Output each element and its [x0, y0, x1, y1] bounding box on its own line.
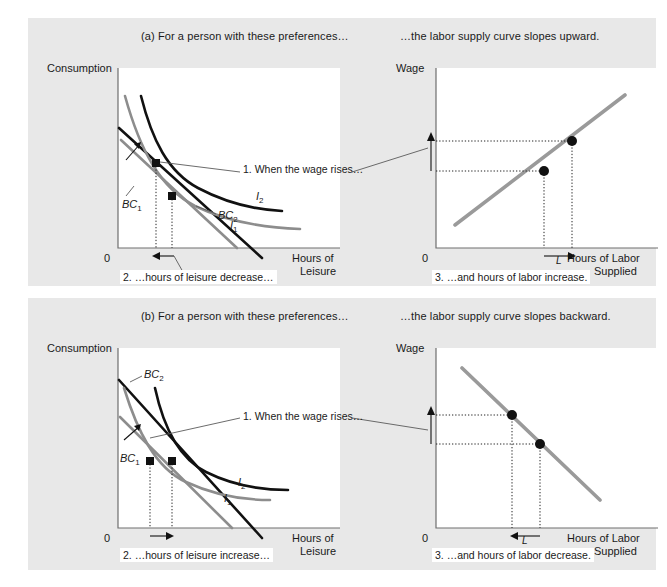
panel-b-leisure-arrowhead — [166, 532, 174, 540]
panel-b-bc2-label-text: BC — [144, 368, 159, 380]
panel-b-bc1-curve — [120, 417, 232, 528]
panel-b-wage-arrowhead — [427, 406, 435, 415]
panel-b-i1-label-sub: 1 — [227, 498, 231, 507]
panel-b-point-high-wage — [507, 410, 517, 420]
panel-b-i2-label: I2 — [238, 476, 246, 491]
panel-b-optimum-low-wage-dot — [146, 457, 154, 465]
panel-b-point-low-wage — [535, 439, 545, 449]
panel-b-optimum-high-wage-dot — [168, 457, 176, 465]
panel-b-bc2-label-leader — [130, 376, 142, 382]
panel-b-step1-leader-right — [352, 418, 428, 430]
panel-b-i1-label: I1 — [224, 492, 232, 507]
panel-b-bc1-label: BC1 — [120, 452, 140, 467]
panel-b-callout-step1: 1. When the wage rises… — [243, 410, 363, 422]
panel-b-labor-delta-label: L — [522, 535, 528, 546]
panel-b-bc1-label-text: BC — [120, 452, 135, 464]
panel-b-graphics — [0, 0, 667, 587]
panel-b-bc1-label-sub: 1 — [135, 458, 139, 467]
panel-b-labor-arrowhead — [510, 532, 518, 540]
panel-b-bc2-label-sub: 2 — [159, 374, 163, 383]
panel-b-i1-curve — [124, 388, 270, 500]
panel-b-callout-step3: 3. …and hours of labor decrease. — [432, 548, 594, 562]
panel-b-bc2-curve — [119, 380, 262, 538]
panel-b-i2-label-sub: 2 — [241, 482, 245, 491]
panel-b-bc2-label: BC2 — [144, 368, 164, 383]
panel-b-supply-curve — [462, 368, 600, 500]
panel-b-callout-step2: 2. …hours of leisure increase… — [120, 548, 273, 562]
figure-root: (a) For a person with these preferences…… — [0, 0, 667, 587]
